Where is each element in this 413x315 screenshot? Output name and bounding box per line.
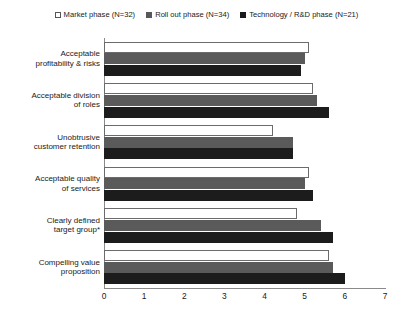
category-label-line: Acceptable division (0, 91, 100, 101)
bar (104, 42, 309, 53)
bar-group (104, 205, 385, 247)
x-tick-label: 0 (94, 291, 114, 302)
bar-group (104, 246, 385, 288)
bar-group (104, 38, 385, 80)
category-label-line: Acceptable quality (0, 174, 100, 184)
x-tick-label: 3 (214, 291, 234, 302)
legend-swatch-gray-icon (146, 12, 152, 18)
legend-label-roll-out-phase: Roll out phase (N=34) (155, 10, 229, 19)
x-tick-label: 5 (295, 291, 315, 302)
x-axis-tick-labels: 01234567 (0, 291, 413, 307)
category-label: Acceptableprofitability & risks (0, 49, 100, 68)
bar (104, 232, 333, 243)
legend-item-roll-out-phase: Roll out phase (N=34) (146, 10, 229, 19)
x-axis-line (104, 288, 386, 289)
category-label: Clearly definedtarget group* (0, 216, 100, 235)
category-label-line: Unobtrusive (0, 133, 100, 143)
legend-swatch-white-icon (55, 12, 61, 18)
category-label-line: Compelling value (0, 258, 100, 268)
chart-legend: Market phase (N=32) Roll out phase (N=34… (0, 10, 413, 19)
bar (104, 178, 305, 189)
bar (104, 83, 313, 94)
category-label-line: profitability & risks (0, 59, 100, 69)
bar-group (104, 163, 385, 205)
bar (104, 95, 317, 106)
bar-chart: Market phase (N=32) Roll out phase (N=34… (0, 0, 413, 315)
legend-label-market-phase: Market phase (N=32) (64, 10, 136, 19)
bar-group (104, 121, 385, 163)
x-tick-label: 2 (174, 291, 194, 302)
bar (104, 137, 293, 148)
plot-area (104, 38, 385, 288)
bar-group (104, 80, 385, 122)
bar (104, 262, 333, 273)
bar (104, 273, 345, 284)
category-label: Compelling valueproposition (0, 258, 100, 277)
category-label: Acceptable divisionof roles (0, 91, 100, 110)
bar (104, 53, 305, 64)
category-label: Acceptable qualityof services (0, 174, 100, 193)
x-tick-label: 4 (255, 291, 275, 302)
bar (104, 65, 301, 76)
bar (104, 148, 293, 159)
category-label-line: proposition (0, 267, 100, 277)
bar (104, 190, 313, 201)
category-label-line: target group* (0, 225, 100, 235)
bar (104, 220, 321, 231)
bar (104, 107, 329, 118)
bar (104, 208, 297, 219)
x-tick-label: 7 (375, 291, 395, 302)
legend-swatch-black-icon (240, 12, 246, 18)
bar (104, 125, 273, 136)
category-label-line: Acceptable (0, 49, 100, 59)
category-label-line: of services (0, 184, 100, 194)
legend-item-market-phase: Market phase (N=32) (55, 10, 136, 19)
category-axis-labels: Acceptableprofitability & risksAcceptabl… (0, 38, 100, 288)
x-tick-label: 1 (134, 291, 154, 302)
category-label-line: customer retention (0, 142, 100, 152)
bar (104, 250, 329, 261)
legend-item-technology-rd-phase: Technology / R&D phase (N=21) (240, 10, 358, 19)
category-label: Unobtrusivecustomer retention (0, 133, 100, 152)
legend-label-technology-rd-phase: Technology / R&D phase (N=21) (249, 10, 358, 19)
category-label-line: of roles (0, 100, 100, 110)
bar (104, 167, 309, 178)
x-tick-label: 6 (335, 291, 355, 302)
category-label-line: Clearly defined (0, 216, 100, 226)
